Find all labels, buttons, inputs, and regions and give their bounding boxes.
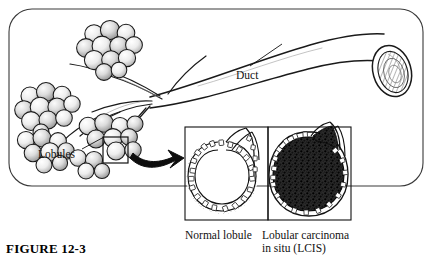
duct-cut-end	[367, 41, 418, 101]
main-duct	[150, 34, 387, 108]
lobule-cluster	[70, 150, 110, 179]
lobule-cluster	[77, 20, 143, 80]
caption-normal-lobule: Normal lobule	[185, 229, 252, 242]
figure-container: Duct Lobules Normal lobule Lobular carci…	[0, 0, 436, 263]
panel-lcis-content	[269, 122, 348, 216]
caption-lcis: Lobular carcinoma in situ (LCIS)	[262, 229, 358, 255]
panel-normal-lobule-content	[186, 128, 259, 214]
detail-panels	[185, 122, 351, 220]
label-lobules: Lobules	[38, 148, 75, 161]
lobule-clusters	[15, 20, 143, 179]
figure-number: FIGURE 12-3	[6, 241, 86, 257]
label-duct: Duct	[236, 69, 258, 82]
breast-lobule-illustration	[0, 0, 436, 263]
